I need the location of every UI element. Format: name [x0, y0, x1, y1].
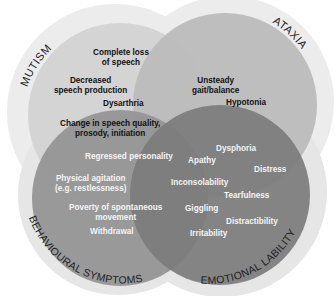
- item-apathy: Apathy: [188, 156, 216, 166]
- item-hypotonia: Hypotonia: [226, 98, 266, 108]
- item-change-in-speech-quality: Change in speech quality, prosody, initi…: [60, 119, 160, 138]
- item-dysphoria: Dysphoria: [216, 144, 256, 154]
- item-line: movement: [69, 213, 162, 223]
- item-line: prosody, initiation: [60, 129, 160, 139]
- item-distress: Distress: [254, 165, 286, 175]
- item-physical-agitation: Physical agitation (e.g. restlessness): [55, 174, 126, 193]
- item-line: Complete loss: [93, 48, 149, 58]
- item-line: Unsteady: [192, 76, 239, 86]
- item-line: Change in speech quality,: [60, 119, 160, 129]
- item-irritability: Irritability: [190, 229, 227, 239]
- item-tearfulness: Tearfulness: [224, 191, 269, 201]
- venn-diagram: MUTISM ATAXIA BEHAVIOURAL SYMPTOMS EMOTI…: [0, 0, 335, 296]
- item-line: gait/balance: [192, 86, 239, 96]
- item-withdrawal: Withdrawal: [90, 227, 134, 237]
- item-complete-loss-of-speech: Complete loss of speech: [93, 48, 149, 67]
- item-giggling: Giggling: [185, 204, 218, 214]
- item-line: Poverty of spontaneous: [69, 203, 162, 213]
- item-inconsolability: Inconsolability: [171, 178, 228, 188]
- item-poverty-of-spontaneous-movement: Poverty of spontaneous movement: [69, 203, 162, 222]
- item-line: of speech: [93, 58, 149, 68]
- item-unsteady-gait-balance: Unsteady gait/balance: [192, 76, 239, 95]
- item-decreased-speech-production: Decreased speech production: [54, 76, 127, 95]
- item-regressed-personality: Regressed personality: [85, 152, 173, 162]
- item-distractibility: Distractibility: [226, 217, 278, 227]
- item-line: (e.g. restlessness): [55, 184, 126, 194]
- item-line: Decreased: [54, 76, 127, 86]
- item-line: Physical agitation: [55, 174, 126, 184]
- item-line: speech production: [54, 86, 127, 96]
- item-dysarthria: Dysarthria: [103, 99, 144, 109]
